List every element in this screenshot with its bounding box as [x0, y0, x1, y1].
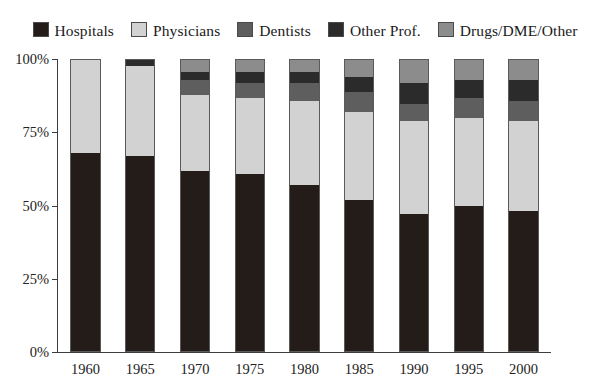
- bar-segment[interactable]: [345, 92, 373, 112]
- bar-segment[interactable]: [236, 60, 264, 72]
- bar-segment[interactable]: [400, 83, 428, 103]
- bar-segment[interactable]: [345, 112, 373, 199]
- y-axis-label: 0%: [30, 344, 49, 361]
- bar-segment[interactable]: [400, 121, 428, 214]
- bar-segment[interactable]: [236, 174, 264, 352]
- bar-segment[interactable]: [455, 60, 483, 80]
- bar-column[interactable]: 1985: [344, 59, 374, 352]
- legend-swatch-icon: [131, 22, 147, 37]
- bar-column[interactable]: 1995: [454, 59, 484, 352]
- bar-column[interactable]: 1990: [399, 59, 429, 352]
- x-axis-label: 1965: [125, 361, 155, 378]
- bar-segment[interactable]: [345, 200, 373, 351]
- legend-item[interactable]: Hospitals: [33, 22, 114, 38]
- bar-segment[interactable]: [400, 60, 428, 83]
- stacked-bar[interactable]: [235, 59, 265, 352]
- bar-segment[interactable]: [455, 98, 483, 118]
- bar-segment[interactable]: [345, 77, 373, 92]
- x-axis-label: 1975: [235, 361, 265, 378]
- bar-segment[interactable]: [181, 72, 209, 81]
- legend-item[interactable]: Physicians: [131, 22, 220, 38]
- bar-segment[interactable]: [290, 83, 318, 100]
- x-axis-label: 1980: [289, 361, 319, 378]
- x-axis-label: 1985: [344, 361, 374, 378]
- bar-segment[interactable]: [181, 80, 209, 95]
- bar-segment[interactable]: [236, 83, 264, 98]
- bar-segment[interactable]: [126, 66, 154, 156]
- bar-segment[interactable]: [126, 156, 154, 351]
- y-axis-label: 50%: [22, 197, 49, 214]
- stacked-bar[interactable]: [508, 59, 538, 352]
- legend-item-label: Dentists: [259, 23, 311, 39]
- bar-segment[interactable]: [181, 171, 209, 351]
- bar-column[interactable]: 2000: [508, 59, 538, 352]
- stacked-bar[interactable]: [289, 59, 319, 352]
- stacked-bar-chart: HospitalsPhysiciansDentistsOther Prof.Dr…: [0, 0, 610, 390]
- bar-segment[interactable]: [290, 101, 318, 185]
- bar-column[interactable]: 1980: [289, 59, 319, 352]
- bar-segment[interactable]: [181, 95, 209, 171]
- bar-segment[interactable]: [509, 101, 537, 121]
- bar-segment[interactable]: [400, 104, 428, 121]
- bar-segment[interactable]: [345, 60, 373, 77]
- legend-item[interactable]: Drugs/DME/Other: [438, 22, 578, 38]
- legend-item-label: Physicians: [153, 23, 220, 39]
- bar-segment[interactable]: [509, 60, 537, 80]
- bar-segment[interactable]: [71, 153, 99, 351]
- stacked-bar[interactable]: [70, 59, 100, 352]
- x-axis-label: 1970: [180, 361, 210, 378]
- bar-segment[interactable]: [71, 60, 99, 153]
- legend-item[interactable]: Other Prof.: [328, 22, 421, 38]
- bar-column[interactable]: 1975: [235, 59, 265, 352]
- stacked-bar[interactable]: [125, 59, 155, 352]
- stacked-bar[interactable]: [180, 59, 210, 352]
- legend-swatch-icon: [438, 22, 454, 37]
- bar-segment[interactable]: [290, 60, 318, 72]
- bar-segment[interactable]: [290, 72, 318, 84]
- bar-segment[interactable]: [236, 72, 264, 84]
- y-axis-tick: [52, 352, 58, 353]
- bar-segment[interactable]: [455, 206, 483, 352]
- y-axis-label: 25%: [22, 270, 49, 287]
- x-axis-label: 1960: [70, 361, 100, 378]
- bar-column[interactable]: 1965: [125, 59, 155, 352]
- bar-segment[interactable]: [509, 211, 537, 351]
- stacked-bar[interactable]: [399, 59, 429, 352]
- legend-item-label: Drugs/DME/Other: [460, 23, 578, 39]
- bar-segment[interactable]: [455, 80, 483, 97]
- y-axis-label: 75%: [22, 124, 49, 141]
- chart-legend: HospitalsPhysiciansDentistsOther Prof.Dr…: [0, 22, 610, 38]
- bar-column[interactable]: 1960: [70, 59, 100, 352]
- y-axis-label: 100%: [15, 51, 49, 68]
- x-axis-label: 1990: [399, 361, 429, 378]
- bar-column[interactable]: 1970: [180, 59, 210, 352]
- stacked-bar[interactable]: [454, 59, 484, 352]
- bar-segment[interactable]: [181, 60, 209, 72]
- bar-segment[interactable]: [509, 80, 537, 100]
- bar-segment[interactable]: [290, 185, 318, 351]
- plot-area: 0%25%50%75%100% 196019651970197519801985…: [57, 59, 551, 353]
- stacked-bar[interactable]: [344, 59, 374, 352]
- legend-item-label: Hospitals: [55, 23, 114, 39]
- x-axis-label: 1995: [454, 361, 484, 378]
- legend-swatch-icon: [33, 22, 49, 37]
- legend-item[interactable]: Dentists: [237, 22, 311, 38]
- bar-group: 196019651970197519801985199019952000: [58, 59, 551, 352]
- legend-swatch-icon: [328, 22, 344, 37]
- x-axis-label: 2000: [508, 361, 538, 378]
- bar-segment[interactable]: [509, 121, 537, 211]
- bar-segment[interactable]: [455, 118, 483, 205]
- bar-segment[interactable]: [236, 98, 264, 174]
- legend-swatch-icon: [237, 22, 253, 37]
- legend-item-label: Other Prof.: [350, 23, 421, 39]
- bar-segment[interactable]: [400, 214, 428, 351]
